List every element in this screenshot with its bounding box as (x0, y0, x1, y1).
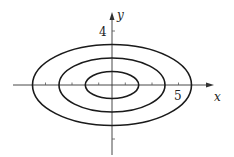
y-axis-label: y (116, 8, 124, 22)
x-axis-label: x (214, 90, 221, 104)
x-axis-arrow-icon (206, 83, 214, 88)
y-axis-arrow-icon (110, 12, 115, 20)
x-tick-label-5: 5 (174, 89, 182, 103)
contour-diagram: y 4 5 x (0, 0, 234, 157)
y-tick-label-4: 4 (99, 25, 107, 39)
